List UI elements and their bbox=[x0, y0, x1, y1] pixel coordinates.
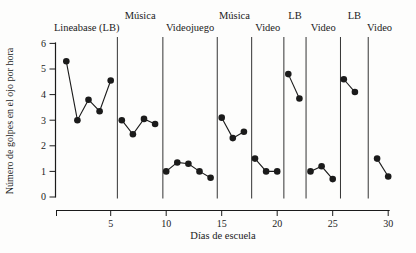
data-point bbox=[318, 163, 325, 170]
y-tick-label: 1 bbox=[41, 166, 46, 177]
data-point bbox=[74, 117, 81, 124]
data-point bbox=[85, 96, 92, 103]
phase-separators bbox=[117, 37, 368, 199]
phase-label: Video bbox=[311, 22, 336, 33]
y-tick-label: 5 bbox=[41, 63, 46, 74]
x-tick-label: 30 bbox=[383, 218, 393, 229]
data-point bbox=[218, 114, 225, 121]
data-point bbox=[252, 155, 259, 162]
data-point bbox=[130, 131, 137, 138]
x-tick-label: 10 bbox=[161, 218, 171, 229]
phase-label: Música bbox=[219, 10, 250, 21]
data-point bbox=[107, 77, 114, 84]
data-point bbox=[207, 175, 214, 182]
data-point bbox=[152, 121, 159, 128]
figure-stage: Lineabase (LB)MúsicaVideojuegoMúsicaVide… bbox=[0, 0, 416, 253]
data-point bbox=[185, 160, 192, 167]
y-tick-label: 6 bbox=[41, 38, 46, 49]
phase-line bbox=[288, 74, 299, 98]
data-point bbox=[263, 168, 270, 175]
data-point bbox=[96, 108, 103, 115]
phase-label: Video bbox=[367, 22, 392, 33]
data-point bbox=[385, 173, 392, 180]
x-axis-title: Días de escuela bbox=[190, 230, 256, 241]
y-axis: 0123456 bbox=[41, 38, 56, 203]
x-tick-label: 5 bbox=[108, 218, 113, 229]
phase-label: LB bbox=[288, 10, 301, 21]
data-point bbox=[141, 116, 148, 123]
data-point bbox=[329, 176, 336, 183]
x-axis: 51015202530 bbox=[56, 211, 393, 229]
data-point bbox=[307, 168, 314, 175]
phase-line bbox=[122, 119, 155, 134]
phase-label: Música bbox=[125, 10, 156, 21]
phase-label: LB bbox=[348, 10, 361, 21]
data-point bbox=[119, 117, 126, 124]
y-tick-label: 0 bbox=[41, 191, 46, 202]
data-point bbox=[230, 135, 237, 142]
x-tick-label: 25 bbox=[328, 218, 338, 229]
data-point bbox=[374, 155, 381, 162]
data-point bbox=[296, 95, 303, 102]
phase-label: Lineabase (LB) bbox=[54, 22, 120, 34]
data-point bbox=[196, 168, 203, 175]
y-axis-title: Número de golpes en el ojo por hora bbox=[4, 47, 15, 194]
phase-labels: Lineabase (LB)MúsicaVideojuegoMúsicaVide… bbox=[54, 10, 392, 34]
data-point bbox=[341, 76, 348, 83]
data-point bbox=[63, 58, 70, 65]
behavior-phase-chart: Lineabase (LB)MúsicaVideojuegoMúsicaVide… bbox=[0, 0, 416, 253]
y-tick-label: 4 bbox=[41, 89, 46, 100]
data-point bbox=[163, 168, 170, 175]
phase-line bbox=[66, 61, 110, 120]
data-series bbox=[63, 58, 392, 182]
y-tick-label: 3 bbox=[41, 115, 46, 126]
x-tick-label: 20 bbox=[272, 218, 282, 229]
data-point bbox=[174, 159, 181, 166]
x-tick-label: 15 bbox=[217, 218, 227, 229]
y-tick-label: 2 bbox=[41, 140, 46, 151]
phase-label: Videojuego bbox=[166, 22, 214, 33]
data-point bbox=[274, 168, 281, 175]
data-point bbox=[241, 128, 248, 135]
data-point bbox=[352, 89, 359, 96]
phase-label: Video bbox=[255, 22, 280, 33]
data-point bbox=[285, 71, 292, 78]
